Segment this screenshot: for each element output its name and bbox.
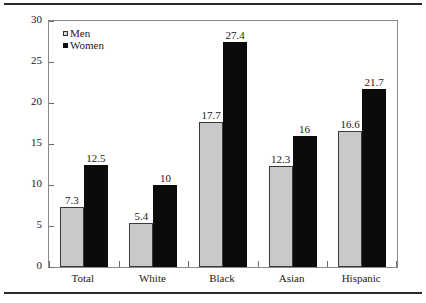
y-axis-tick-mark <box>49 267 54 268</box>
bar-asian-men <box>269 166 293 267</box>
legend-label-women: Women <box>70 39 104 51</box>
y-axis-tick-label: 0 <box>37 259 43 271</box>
x-axis-tick-mark <box>327 261 328 267</box>
bar-black-women <box>223 42 247 267</box>
y-axis-tick-label: 10 <box>31 177 42 189</box>
legend-swatch-men-icon <box>63 31 68 36</box>
y-axis-tick-mark <box>49 226 54 227</box>
legend-swatch-women-icon <box>63 43 68 48</box>
bar-value-label: 16 <box>285 123 325 135</box>
bottom-rule <box>4 292 422 294</box>
bar-value-label: 10 <box>145 172 185 184</box>
y-axis-tick-mark <box>49 62 54 63</box>
bar-white-women <box>153 185 177 267</box>
y-axis-tick-label: 25 <box>31 54 42 66</box>
x-axis-category-white: White <box>112 272 192 284</box>
y-axis-tick-label: 15 <box>31 136 42 148</box>
bar-white-men <box>129 223 153 267</box>
bar-value-label: 21.7 <box>354 76 394 88</box>
x-axis-category-asian: Asian <box>252 272 332 284</box>
bar-total-women <box>84 165 108 268</box>
x-axis-category-black: Black <box>182 272 262 284</box>
y-axis-tick-label: 30 <box>31 13 42 25</box>
chart-legend: Men Women <box>63 27 104 51</box>
y-axis-tick-mark <box>49 144 54 145</box>
x-axis-tick-mark <box>188 261 189 267</box>
bar-black-men <box>199 122 223 267</box>
x-axis-tick-mark <box>119 261 120 267</box>
x-axis-tick-mark <box>396 261 397 267</box>
plot-area: Men Women 0510152025307.312.55.41017.727… <box>48 20 398 268</box>
legend-item-women: Women <box>63 39 104 51</box>
y-axis-tick-mark <box>49 185 54 186</box>
bar-value-label: 12.5 <box>76 152 116 164</box>
bar-value-label: 27.4 <box>215 29 255 41</box>
bar-total-men <box>60 207 84 267</box>
bar-hispanic-men <box>338 131 362 267</box>
legend-item-men: Men <box>63 27 104 39</box>
x-axis-category-hispanic: Hispanic <box>321 272 401 284</box>
figure: Percentage Men Women 0510152025307.312.5… <box>0 0 426 303</box>
top-rule <box>4 3 422 5</box>
bar-hispanic-women <box>362 89 386 267</box>
legend-label-men: Men <box>70 27 90 39</box>
bar-asian-women <box>293 136 317 267</box>
x-axis-tick-mark <box>258 261 259 267</box>
y-axis-tick-label: 20 <box>31 95 42 107</box>
y-axis-tick-mark <box>49 103 54 104</box>
y-axis-tick-mark <box>49 21 54 22</box>
y-axis-tick-label: 5 <box>37 218 43 230</box>
x-axis-category-total: Total <box>43 272 123 284</box>
x-axis-tick-mark <box>49 261 50 267</box>
